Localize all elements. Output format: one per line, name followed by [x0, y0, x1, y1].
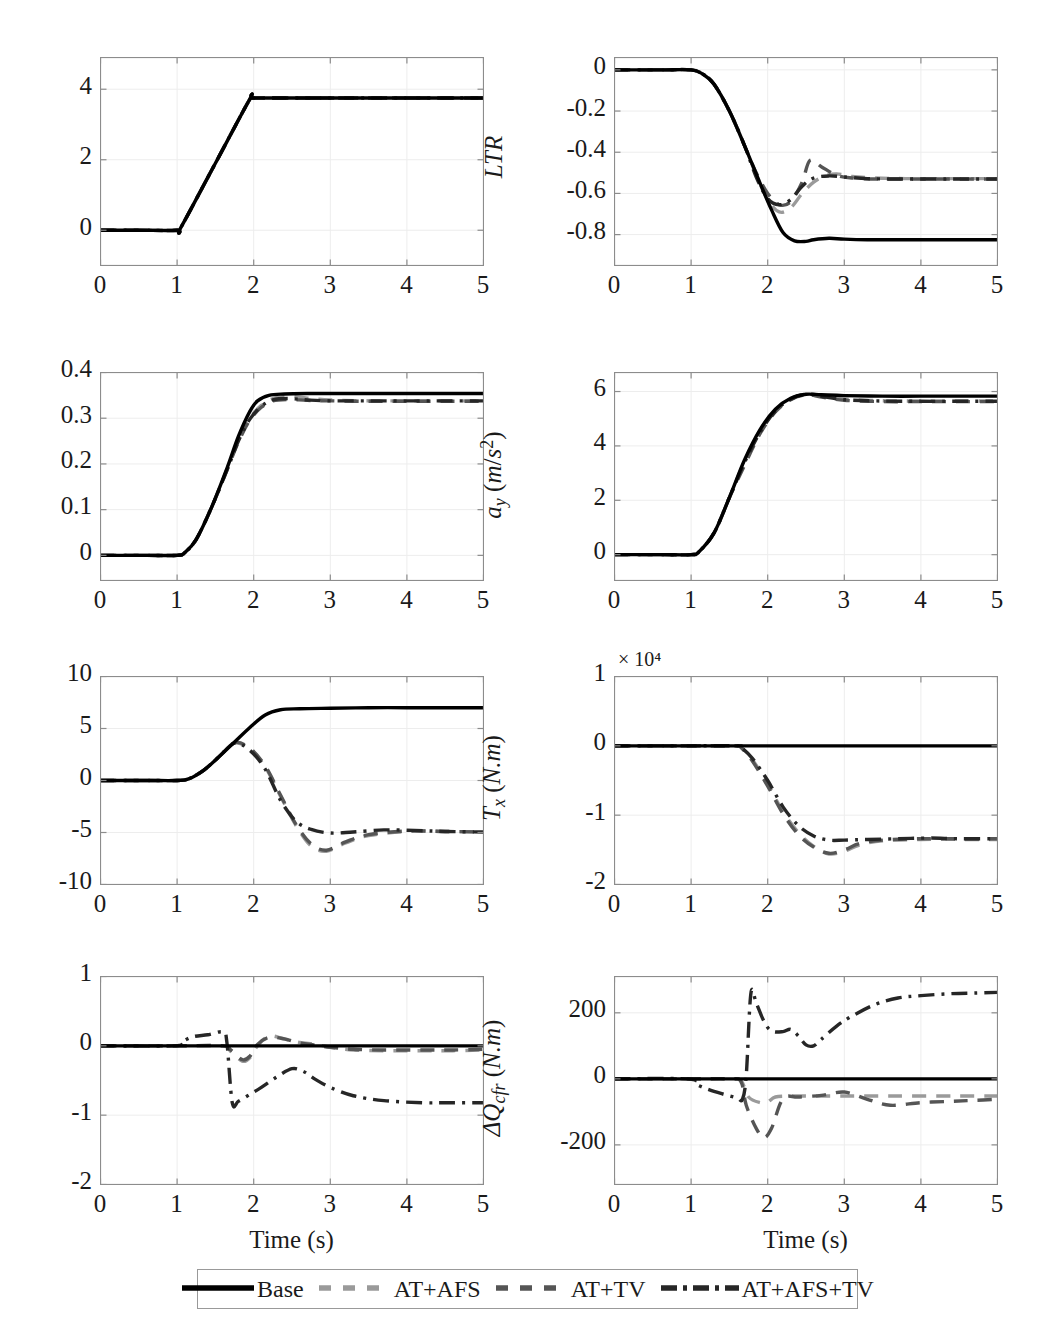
- ytick-label: -200: [516, 1127, 606, 1155]
- xtick-label: 5: [972, 1190, 1022, 1218]
- xtick-label: 1: [152, 271, 202, 299]
- legend-line-swatch-dashed: [318, 1280, 392, 1298]
- xtick-label: 0: [589, 271, 639, 299]
- xtick-label: 5: [972, 271, 1022, 299]
- plot-panel-delta_cfr: 012345-2-101δcfr (deg)Time (s): [100, 976, 483, 1184]
- plot-panel-a_y: 0123450246ay (m/s2): [614, 372, 997, 580]
- xtick-label: 4: [895, 271, 945, 299]
- axis-exponent-label: × 10⁴: [618, 648, 661, 671]
- xtick-label: 3: [305, 586, 355, 614]
- xtick-label: 5: [458, 271, 508, 299]
- ytick-label: -10: [2, 867, 92, 895]
- legend-label: AT+AFS: [394, 1276, 481, 1303]
- y-axis-label-T_x: Tx (N.m): [478, 674, 510, 882]
- xtick-label: 3: [305, 1190, 355, 1218]
- xtick-label: 2: [742, 1190, 792, 1218]
- ytick-label: -0.4: [516, 135, 606, 163]
- xtick-label: 5: [972, 890, 1022, 918]
- ytick-label: 4: [516, 428, 606, 456]
- plot-panel-LTR: 0123450-0.2-0.4-0.6-0.8LTR: [614, 57, 997, 265]
- legend-label: AT+TV: [571, 1276, 646, 1303]
- ytick-label: -1: [516, 798, 606, 826]
- ytick-label: 0: [2, 1028, 92, 1056]
- xtick-label: 3: [819, 890, 869, 918]
- x-axis-label-dQ_cfr: Time (s): [614, 1226, 997, 1254]
- xtick-label: 4: [381, 586, 431, 614]
- plot-panel-phi: 012345-10-50510φ (deg): [100, 676, 483, 884]
- legend-line-swatch-solid: [181, 1280, 255, 1298]
- x-axis-label-delta_cfr: Time (s): [100, 1226, 483, 1254]
- xtick-label: 5: [458, 890, 508, 918]
- xtick-label: 3: [305, 890, 355, 918]
- ytick-label: 2: [516, 483, 606, 511]
- xtick-label: 2: [228, 890, 278, 918]
- ytick-label: 6: [516, 374, 606, 402]
- plot-panel-r: 01234500.10.20.30.4r (rad/s): [100, 372, 483, 580]
- legend-item-at-tv[interactable]: AT+TV: [495, 1276, 646, 1303]
- xtick-label: 1: [152, 1190, 202, 1218]
- ytick-label: -0.8: [516, 217, 606, 245]
- legend-line-swatch-dashed: [495, 1280, 569, 1298]
- ytick-label: -2: [516, 867, 606, 895]
- ytick-label: 200: [516, 995, 606, 1023]
- xtick-label: 4: [381, 1190, 431, 1218]
- y-axis-label-a_y: ay (m/s2): [477, 371, 511, 579]
- xtick-label: 0: [75, 586, 125, 614]
- xtick-label: 5: [458, 1190, 508, 1218]
- ytick-label: 4: [2, 72, 92, 100]
- xtick-label: 1: [666, 890, 716, 918]
- xtick-label: 2: [228, 271, 278, 299]
- xtick-label: 2: [228, 586, 278, 614]
- xtick-label: 4: [895, 1190, 945, 1218]
- ytick-label: -0.6: [516, 176, 606, 204]
- legend: BaseAT+AFSAT+TVAT+AFS+TV: [197, 1269, 858, 1309]
- legend-item-base[interactable]: Base: [181, 1276, 304, 1303]
- ytick-label: 0.3: [2, 401, 92, 429]
- plot-panel-T_x: 012345-2-101Tx (N.m)× 10⁴: [614, 676, 997, 884]
- xtick-label: 4: [895, 586, 945, 614]
- figure-canvas: BaseAT+AFSAT+TVAT+AFS+TV 012345024δd (de…: [0, 0, 1044, 1339]
- xtick-label: 3: [819, 586, 869, 614]
- ytick-label: 0: [516, 728, 606, 756]
- ytick-label: -5: [2, 815, 92, 843]
- xtick-label: 3: [305, 271, 355, 299]
- y-axis-label-dQ_cfr: ΔQcfr (N.m): [478, 974, 510, 1182]
- y-axis-label-LTR: LTR: [480, 53, 508, 261]
- ytick-label: 1: [516, 659, 606, 687]
- ytick-label: 0: [2, 763, 92, 791]
- xtick-label: 5: [458, 586, 508, 614]
- ytick-label: 0: [516, 1061, 606, 1089]
- plot-panel-delta_d: 012345024δd (deg): [100, 57, 483, 265]
- legend-item-at-afs[interactable]: AT+AFS: [318, 1276, 481, 1303]
- ytick-label: 0.1: [2, 492, 92, 520]
- ytick-label: 0.2: [2, 446, 92, 474]
- xtick-label: 1: [152, 890, 202, 918]
- xtick-label: 5: [972, 586, 1022, 614]
- xtick-label: 4: [381, 890, 431, 918]
- xtick-label: 1: [666, 271, 716, 299]
- ytick-label: 5: [2, 711, 92, 739]
- ytick-label: -1: [2, 1098, 92, 1126]
- xtick-label: 1: [666, 1190, 716, 1218]
- xtick-label: 3: [819, 271, 869, 299]
- ytick-label: 0: [2, 213, 92, 241]
- xtick-label: 2: [742, 271, 792, 299]
- ytick-label: 0.4: [2, 355, 92, 383]
- xtick-label: 2: [228, 1190, 278, 1218]
- xtick-label: 4: [381, 271, 431, 299]
- xtick-label: 0: [75, 271, 125, 299]
- legend-line-swatch-dashdot: [660, 1280, 740, 1298]
- ytick-label: 0: [516, 52, 606, 80]
- xtick-label: 2: [742, 890, 792, 918]
- ytick-label: 10: [2, 659, 92, 687]
- xtick-label: 4: [895, 890, 945, 918]
- ytick-label: 2: [2, 142, 92, 170]
- ytick-label: 0: [2, 538, 92, 566]
- xtick-label: 0: [589, 1190, 639, 1218]
- legend-item-at-afs-tv[interactable]: AT+AFS+TV: [660, 1276, 874, 1303]
- ytick-label: 1: [2, 959, 92, 987]
- legend-label: Base: [257, 1276, 304, 1303]
- plot-panel-dQ_cfr: 012345-2000200ΔQcfr (N.m)Time (s): [614, 976, 997, 1184]
- xtick-label: 3: [819, 1190, 869, 1218]
- xtick-label: 1: [666, 586, 716, 614]
